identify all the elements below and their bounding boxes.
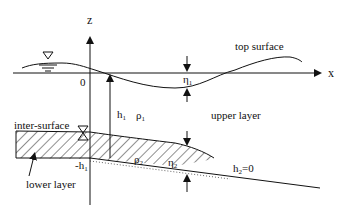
water-level-icon [39, 52, 57, 71]
x-axis-label: x [328, 66, 334, 80]
top-surface-curve [22, 57, 302, 88]
h2-zero-label: h2=0 [233, 162, 254, 176]
two-layer-flow-diagram: z x 0 top surface h1 ρ1 η1 upper layer i… [0, 0, 350, 214]
lower-layer-pointer-arrow [29, 156, 34, 176]
z-axis-label: z [87, 13, 92, 27]
neg-h1-label: -h1 [75, 159, 88, 173]
inter-surface-label: inter-surface [14, 119, 69, 131]
upper-layer-label: upper layer [211, 109, 261, 121]
h1-label: h1 [117, 108, 127, 122]
rho1-label: ρ1 [136, 109, 146, 123]
lower-layer-region [16, 131, 214, 166]
top-surface-label: top surface [235, 40, 284, 52]
origin-label: 0 [80, 76, 86, 88]
eta1-label: η1 [183, 73, 193, 87]
lower-layer-label: lower layer [26, 178, 76, 190]
